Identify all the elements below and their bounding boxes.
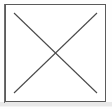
x-mark-icon — [0, 0, 112, 109]
screenshot-root — [0, 0, 112, 109]
